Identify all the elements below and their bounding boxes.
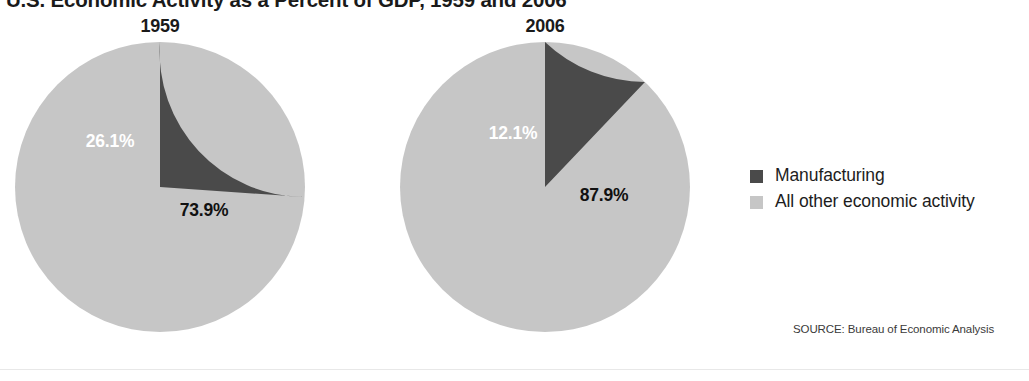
legend-label-all-other: All other economic activity	[775, 193, 975, 211]
legend-swatch-manufacturing-icon	[750, 170, 763, 183]
legend-item-all-other: All other economic activity	[750, 189, 975, 215]
legend-label-manufacturing: Manufacturing	[775, 167, 885, 185]
chart-figure: U.S. Economic Activity as a Percent of G…	[0, 0, 1029, 381]
pie-value-label-all-other-2006: 87.9%	[580, 185, 629, 205]
pie-value-label-manufacturing-1959: 26.1%	[86, 131, 135, 151]
pie-value-label-all-other-1959: 73.9%	[180, 200, 229, 220]
page-title: U.S. Economic Activity as a Percent of G…	[6, 0, 1016, 14]
pie-year-label-1959: 1959	[14, 16, 306, 37]
pie-svg-2006: 12.1% 87.9%	[399, 41, 691, 333]
legend-item-manufacturing: Manufacturing	[750, 163, 975, 189]
pie-svg-1959: 26.1% 73.9%	[14, 41, 306, 333]
pie-value-label-manufacturing-2006: 12.1%	[489, 123, 538, 143]
page-edge-divider	[0, 369, 1029, 370]
pie-year-label-2006: 2006	[399, 16, 691, 37]
source-note: SOURCE: Bureau of Economic Analysis	[793, 323, 994, 335]
legend: Manufacturing All other economic activit…	[750, 163, 975, 215]
legend-swatch-all-other-icon	[750, 196, 763, 209]
